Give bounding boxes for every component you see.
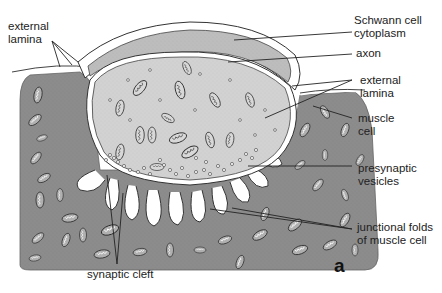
label-line: cell (358, 125, 394, 138)
label-presynaptic-vesicles: presynaptic vesicles (358, 162, 417, 188)
label-line: lamina (8, 33, 49, 46)
label-line: muscle (358, 112, 394, 125)
label-synaptic-cleft: synaptic cleft (87, 268, 153, 281)
label-line: synaptic cleft (87, 268, 153, 281)
label-schwann-cell-cytoplasm: Schwann cell cytoplasm (354, 14, 422, 40)
label-external-lamina-left: external lamina (8, 20, 49, 46)
label-muscle-cell: muscle cell (358, 112, 394, 138)
label-axon: axon (356, 47, 381, 60)
label-line: lamina (360, 87, 401, 100)
label-line: external (360, 74, 401, 87)
label-line: Schwann cell (354, 14, 422, 27)
label-junctional-folds: junctional folds of muscle cell (357, 221, 433, 247)
label-line: presynaptic (358, 162, 417, 175)
label-line: external (8, 20, 49, 33)
label-line: of muscle cell (357, 234, 433, 247)
neuromuscular-junction-diagram (0, 0, 442, 293)
label-line: axon (356, 47, 381, 60)
label-line: vesicles (358, 175, 417, 188)
panel-letter: a (334, 255, 345, 277)
label-line: junctional folds (357, 221, 433, 234)
label-line: cytoplasm (354, 27, 422, 40)
label-external-lamina-right: external lamina (360, 74, 401, 100)
